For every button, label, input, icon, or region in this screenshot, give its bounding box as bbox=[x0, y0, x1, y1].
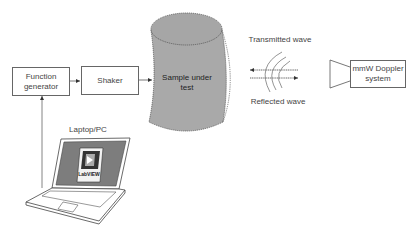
setup-diagram: Function generator Shaker Sample under t… bbox=[0, 0, 413, 232]
transmitted-wave-label: Transmitted wave bbox=[246, 35, 314, 45]
wave-propagation-icon bbox=[250, 52, 298, 92]
diagram-graphics bbox=[0, 0, 413, 232]
doppler-label-line2: system bbox=[352, 74, 403, 84]
doppler-system-box: mmW Doppler system bbox=[350, 60, 406, 88]
sample-label-line1: Sample under bbox=[150, 73, 224, 83]
sample-cylinder-icon bbox=[149, 13, 230, 131]
function-generator-label-line1: Function bbox=[24, 72, 58, 82]
laptop-label: Laptop/PC bbox=[66, 125, 110, 135]
sample-label: Sample under test bbox=[150, 73, 224, 93]
function-generator-box: Function generator bbox=[12, 67, 70, 96]
sample-label-line2: test bbox=[150, 83, 224, 93]
horn-antenna-icon bbox=[330, 60, 350, 88]
shaker-box: Shaker bbox=[81, 66, 139, 95]
reflected-wave-label: Reflected wave bbox=[248, 97, 308, 107]
shaker-label: Shaker bbox=[97, 76, 122, 86]
function-generator-label-line2: generator bbox=[24, 82, 58, 92]
labview-logo-text: LabVIEW bbox=[76, 171, 102, 178]
doppler-label-line1: mmW Doppler bbox=[352, 64, 403, 74]
